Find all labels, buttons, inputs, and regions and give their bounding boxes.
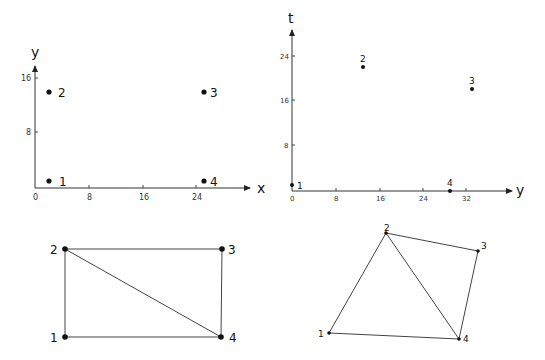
- t-tick-label: 24: [280, 53, 289, 61]
- y-axis-label: y: [516, 182, 524, 198]
- point-label: 2: [360, 54, 366, 64]
- point-label: 4: [447, 178, 453, 188]
- graph-rectangle: 1 2 3 4: [50, 243, 237, 345]
- node-label: 4: [229, 331, 237, 345]
- y-tick-label: 16: [21, 74, 31, 83]
- x-tick-label: 8: [334, 195, 338, 203]
- graph-node: [62, 334, 68, 340]
- node-label: 2: [50, 243, 58, 257]
- node-label: 4: [463, 334, 469, 344]
- node-label: 1: [318, 329, 324, 339]
- edge-4-1: [329, 333, 459, 339]
- x-tick-label: 16: [376, 195, 385, 203]
- x-tick-label: 32: [462, 195, 471, 203]
- data-point: [201, 89, 206, 94]
- point-label: 1: [297, 181, 303, 191]
- graph-quadrilateral: 1 2 3 4: [318, 223, 487, 344]
- point-label: 3: [469, 76, 475, 86]
- t-tick-label: 8: [284, 142, 288, 150]
- point-label: 1: [59, 175, 67, 189]
- edge-2-3: [386, 233, 478, 251]
- node-label: 3: [228, 243, 236, 257]
- graph-node: [219, 246, 225, 252]
- plot-yt: t y 0 8 16 24 32 24 16 8 1 2 3 4: [280, 10, 524, 203]
- graph-node: [476, 249, 480, 253]
- x-tick-label: 24: [419, 195, 428, 203]
- graph-node: [62, 246, 68, 252]
- edge-3-4: [221, 249, 222, 337]
- graph-node: [327, 331, 331, 335]
- data-point: [46, 89, 51, 94]
- data-point: [290, 183, 294, 187]
- data-point: [448, 189, 452, 193]
- x-tick-label: 8: [87, 193, 92, 202]
- data-point: [470, 87, 474, 91]
- node-label: 2: [384, 223, 390, 233]
- x-tick-label: 0: [290, 195, 294, 203]
- diagram-canvas: y x 0 8 16 24 16 8 1 2 3 4 t y 0 8: [0, 0, 545, 360]
- point-label: 3: [210, 86, 218, 100]
- graph-node: [218, 334, 224, 340]
- data-point: [201, 178, 206, 183]
- graph-node: [457, 337, 461, 341]
- edge-3-4: [459, 251, 478, 339]
- plot-xy: y x 0 8 16 24 16 8 1 2 3 4: [21, 44, 265, 202]
- x-axis-label: x: [257, 180, 265, 196]
- t-tick-label: 16: [280, 97, 289, 105]
- node-label: 3: [481, 241, 487, 251]
- data-point: [361, 65, 365, 69]
- y-axis-label: y: [31, 44, 39, 60]
- edge-2-4: [65, 249, 221, 337]
- y-tick-label: 8: [26, 128, 31, 137]
- edge-1-2: [329, 233, 386, 333]
- x-tick-label: 0: [33, 193, 38, 202]
- point-label: 2: [58, 86, 66, 100]
- t-axis-label: t: [288, 10, 294, 26]
- x-tick-label: 24: [192, 193, 202, 202]
- point-label: 4: [210, 175, 218, 189]
- edge-2-4: [386, 233, 459, 339]
- data-point: [46, 178, 51, 183]
- x-tick-label: 16: [139, 193, 149, 202]
- node-label: 1: [50, 331, 58, 345]
